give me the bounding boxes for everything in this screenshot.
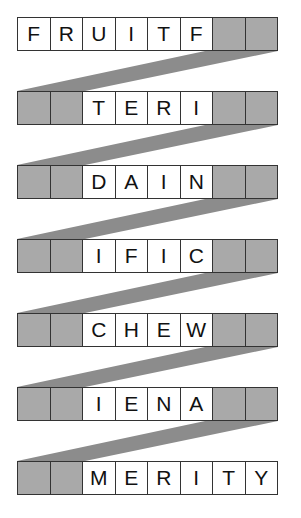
letter-cell: D [83, 166, 116, 198]
letter-cell: M [83, 462, 116, 494]
letter-cell: H [116, 314, 149, 346]
shaded-cell [213, 388, 246, 420]
letter-cell: W [181, 314, 214, 346]
connector-band [17, 125, 278, 165]
letter-cell: I [116, 18, 149, 50]
connector-band [17, 273, 278, 313]
letter-cell: A [181, 388, 214, 420]
connector-band [17, 199, 278, 239]
grid-row: IFIC [17, 239, 278, 273]
letter-cell: E [116, 92, 149, 124]
letter-cell: N [181, 166, 214, 198]
grid-row: TERI [17, 91, 278, 125]
shaded-cell [51, 462, 84, 494]
grid-row: MERITY [17, 461, 278, 495]
letter-cell: C [83, 314, 116, 346]
shaded-cell [18, 388, 51, 420]
shaded-cell [213, 240, 246, 272]
letter-cell: U [83, 18, 116, 50]
letter-cell: F [18, 18, 51, 50]
letter-cell: I [181, 92, 214, 124]
connector-band [17, 51, 278, 91]
shaded-cell [51, 166, 84, 198]
letter-cell: T [148, 18, 181, 50]
grid-row: IENA [17, 387, 278, 421]
letter-cell: Y [246, 462, 278, 494]
shaded-cell [18, 462, 51, 494]
letter-cell: E [116, 462, 149, 494]
letter-cell: R [148, 462, 181, 494]
letter-cell: E [116, 388, 149, 420]
letter-cell: I [83, 240, 116, 272]
letter-cell: R [148, 92, 181, 124]
letter-cell: E [148, 314, 181, 346]
shaded-cell [246, 166, 278, 198]
shaded-cell [246, 92, 278, 124]
shaded-cell [213, 314, 246, 346]
shaded-cell [18, 92, 51, 124]
letter-cell: I [148, 166, 181, 198]
shaded-cell [213, 166, 246, 198]
shaded-cell [51, 388, 84, 420]
letter-cell: A [116, 166, 149, 198]
shaded-cell [213, 92, 246, 124]
connector-band [17, 421, 278, 461]
letter-cell: I [83, 388, 116, 420]
letter-cell: I [148, 240, 181, 272]
shaded-cell [246, 388, 278, 420]
connector-band [17, 347, 278, 387]
grid-row: FRUITF [17, 17, 278, 51]
shaded-cell [213, 18, 246, 50]
shaded-cell [51, 314, 84, 346]
shaded-cell [18, 314, 51, 346]
letter-cell: F [181, 18, 214, 50]
shaded-cell [246, 18, 278, 50]
letter-cell: I [181, 462, 214, 494]
shaded-cell [51, 240, 84, 272]
letter-cell: T [213, 462, 246, 494]
grid-row: DAIN [17, 165, 278, 199]
letter-cell: R [51, 18, 84, 50]
letter-cell: C [181, 240, 214, 272]
letter-cell: N [148, 388, 181, 420]
letter-cell: T [83, 92, 116, 124]
grid-row: CHEW [17, 313, 278, 347]
letter-cell: F [116, 240, 149, 272]
shaded-cell [51, 92, 84, 124]
shaded-cell [18, 166, 51, 198]
shaded-cell [246, 314, 278, 346]
shaded-cell [246, 240, 278, 272]
shaded-cell [18, 240, 51, 272]
